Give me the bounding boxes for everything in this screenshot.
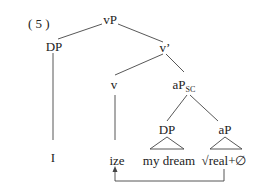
node-aP-inner: aP	[219, 123, 232, 136]
node-v-bar: v’	[160, 41, 171, 54]
node-aPsc: aPSC	[173, 78, 196, 96]
leaf-my-dream: my dream	[143, 154, 195, 167]
leaf-ize: ize	[109, 154, 124, 167]
node-DP-spec: DP	[46, 40, 63, 53]
leaf-real: √real+∅	[202, 154, 247, 167]
example-number: ( 5 )	[28, 17, 50, 30]
node-aPsc-label: aP	[173, 77, 186, 92]
leaf-I: I	[51, 151, 55, 164]
node-v: v	[111, 78, 118, 91]
node-vP: vP	[103, 13, 117, 26]
node-DP-inner: DP	[159, 123, 176, 136]
node-aPsc-subscript: SC	[186, 85, 196, 94]
